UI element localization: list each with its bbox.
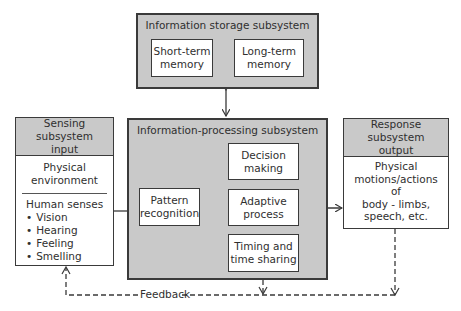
senses-list: Vision Hearing Feeling Smelling (26, 211, 113, 263)
long-term-memory: Long-term memory (234, 39, 304, 77)
adaptive-process: Adaptive process (228, 189, 299, 226)
physical-environment: Physical environment (16, 161, 113, 187)
sense-item: Hearing (26, 224, 113, 237)
storage-title: Information storage subsystem (138, 19, 317, 32)
sensing-subsystem: Sensing subsystem input Physical environ… (15, 117, 114, 266)
decision-making: Decision making (228, 143, 299, 180)
storage-subsystem: Information storage subsystem Short-term… (136, 13, 319, 89)
human-senses: Human senses Vision Hearing Feeling Smel… (16, 198, 113, 263)
sense-item: Smelling (26, 250, 113, 263)
sense-item: Vision (26, 211, 113, 224)
response-body: Physical motions/actions of body - limbs… (344, 160, 448, 223)
response-title: Response subsystem output (344, 119, 448, 157)
sense-item: Feeling (26, 237, 113, 250)
divider (22, 193, 107, 194)
sensing-title: Sensing subsystem input (16, 118, 113, 156)
processing-title: Information-processing subsystem (129, 124, 326, 137)
timing-time-sharing: Timing and time sharing (228, 234, 299, 272)
short-term-memory: Short-term memory (151, 39, 213, 77)
feedback-label: Feedback (140, 288, 182, 301)
pattern-recognition: Pattern recognition (139, 188, 200, 226)
response-subsystem: Response subsystem output Physical motio… (343, 118, 449, 229)
